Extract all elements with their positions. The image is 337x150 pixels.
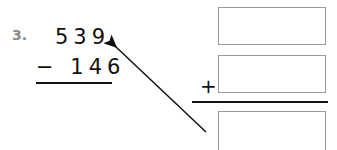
answer-box-addend-1[interactable] xyxy=(218,7,326,45)
plus-sign: + xyxy=(200,76,217,96)
arrow-line xyxy=(115,46,206,132)
addition-line xyxy=(192,101,328,103)
answer-box-sum[interactable] xyxy=(218,111,326,150)
answer-box-addend-2[interactable] xyxy=(218,55,326,93)
